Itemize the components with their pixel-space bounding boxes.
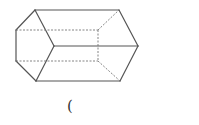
edge-line (35, 10, 54, 46)
edge-line (36, 46, 54, 81)
hexagonal-prism-figure (0, 0, 199, 125)
edge-line (120, 46, 138, 81)
edge-line (16, 61, 36, 81)
visible-edges (16, 10, 138, 81)
edge-line (16, 10, 35, 30)
edge-line (119, 10, 138, 46)
hidden-edge-line (98, 10, 119, 30)
answer-parenthesis: ( (67, 99, 73, 114)
hidden-edge-line (98, 61, 120, 81)
